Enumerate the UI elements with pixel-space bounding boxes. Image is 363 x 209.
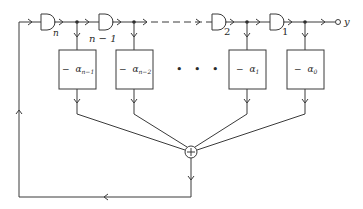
coefficient-block-alpha-n-minus-1: − αn−1 <box>59 50 96 89</box>
delay-label-1: 1 <box>282 26 288 37</box>
delay-element-n-minus-1 <box>99 14 113 30</box>
delay-label-n: n <box>53 28 59 38</box>
delay-label-2: 2 <box>224 26 230 37</box>
coefficient-block-alpha-0: − α0 <box>287 50 324 89</box>
summing-junction <box>185 146 197 158</box>
output-label-y: y <box>343 16 350 27</box>
feedback-path <box>16 22 194 200</box>
coefficient-block-alpha-n-minus-2: − αn−2 <box>116 50 153 89</box>
output-terminal <box>336 20 341 25</box>
ellipsis: • • • <box>176 63 222 76</box>
delay-label-n-minus-1: n − 1 <box>89 33 117 44</box>
summing-inputs <box>74 89 308 150</box>
feedback-shift-register-diagram: n n − 1 2 1 y − αn−1 − αn−2 <box>0 0 363 209</box>
coefficient-block-alpha-1: − α1 <box>229 50 266 89</box>
